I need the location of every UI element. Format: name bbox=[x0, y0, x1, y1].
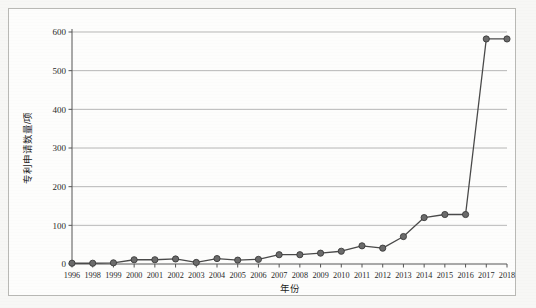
y-tick-label-100: 100 bbox=[53, 221, 67, 231]
data-point-1998[interactable] bbox=[90, 260, 96, 266]
y-tick-label-500: 500 bbox=[53, 66, 67, 76]
data-series-line bbox=[72, 39, 507, 263]
x-tick-label-2006: 2006 bbox=[250, 271, 266, 280]
data-point-2013[interactable] bbox=[400, 233, 406, 239]
x-tick-label-2011: 2011 bbox=[354, 271, 370, 280]
data-point-2010[interactable] bbox=[338, 248, 344, 254]
data-point-2004[interactable] bbox=[214, 255, 220, 261]
data-point-1999[interactable] bbox=[110, 260, 116, 266]
data-point-2014[interactable] bbox=[421, 215, 427, 221]
x-tick-label-2008: 2008 bbox=[292, 271, 308, 280]
x-tick-label-2004: 2004 bbox=[209, 271, 225, 280]
x-tick-label-2010: 2010 bbox=[333, 271, 349, 280]
x-tick-label-2015: 2015 bbox=[437, 271, 453, 280]
x-tick-label-2013: 2013 bbox=[395, 271, 411, 280]
data-point-2006[interactable] bbox=[255, 256, 261, 262]
x-axis-title: 年份 bbox=[280, 283, 300, 294]
chart-figure: 0100200300400500600199619981999200020012… bbox=[0, 0, 536, 308]
data-point-2008[interactable] bbox=[297, 252, 303, 258]
data-point-2003[interactable] bbox=[193, 259, 199, 265]
x-tick-label-2000: 2000 bbox=[126, 271, 142, 280]
data-point-2007[interactable] bbox=[276, 252, 282, 258]
line-chart-plot: 0100200300400500600199619981999200020012… bbox=[9, 9, 517, 297]
data-point-2002[interactable] bbox=[172, 256, 178, 262]
x-tick-label-1996: 1996 bbox=[64, 271, 80, 280]
chart-frame: 0100200300400500600199619981999200020012… bbox=[8, 8, 516, 296]
data-point-2012[interactable] bbox=[380, 245, 386, 251]
data-point-2015[interactable] bbox=[442, 211, 448, 217]
y-tick-label-300: 300 bbox=[53, 143, 67, 153]
x-tick-label-2003: 2003 bbox=[188, 271, 204, 280]
x-tick-label-2018: 2018 bbox=[499, 271, 515, 280]
x-tick-label-2017: 2017 bbox=[478, 271, 494, 280]
y-tick-label-600: 600 bbox=[53, 27, 67, 37]
data-point-2000[interactable] bbox=[131, 257, 137, 263]
data-point-2005[interactable] bbox=[235, 257, 241, 263]
y-axis-title: 专利申请数量/项 bbox=[22, 112, 33, 185]
y-tick-label-400: 400 bbox=[53, 105, 67, 115]
data-point-2017[interactable] bbox=[483, 36, 489, 42]
x-tick-label-2009: 2009 bbox=[312, 271, 328, 280]
data-point-2001[interactable] bbox=[152, 257, 158, 263]
x-tick-label-1998: 1998 bbox=[85, 271, 101, 280]
x-tick-label-2005: 2005 bbox=[230, 271, 246, 280]
x-tick-label-2016: 2016 bbox=[457, 271, 473, 280]
x-tick-label-2002: 2002 bbox=[167, 271, 183, 280]
data-point-2018[interactable] bbox=[504, 36, 510, 42]
y-tick-label-0: 0 bbox=[62, 259, 67, 269]
x-tick-label-2014: 2014 bbox=[416, 271, 432, 280]
x-tick-label-2012: 2012 bbox=[375, 271, 391, 280]
x-tick-label-2001: 2001 bbox=[147, 271, 163, 280]
data-point-2009[interactable] bbox=[317, 250, 323, 256]
y-tick-label-200: 200 bbox=[53, 182, 67, 192]
data-point-1996[interactable] bbox=[69, 260, 75, 266]
x-tick-label-1999: 1999 bbox=[105, 271, 121, 280]
data-point-2011[interactable] bbox=[359, 243, 365, 249]
x-tick-label-2007: 2007 bbox=[271, 271, 287, 280]
data-point-2016[interactable] bbox=[462, 211, 468, 217]
